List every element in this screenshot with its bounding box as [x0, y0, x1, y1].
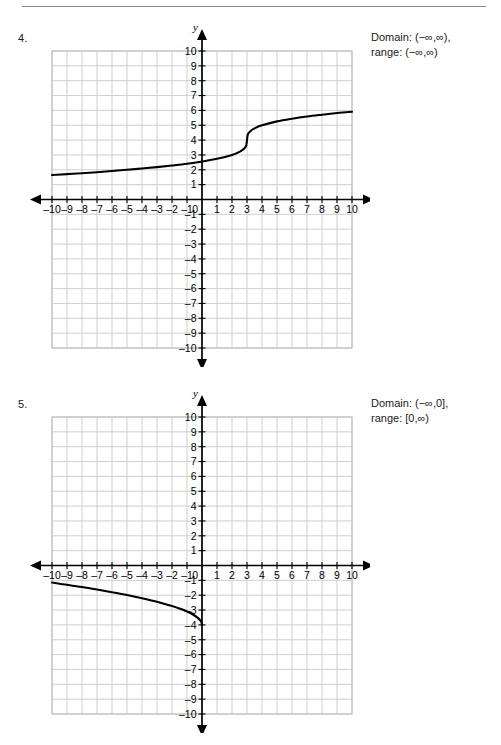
- x-axis-tick-label: –3: [151, 203, 163, 215]
- y-axis-tick-label: –7: [185, 297, 197, 309]
- x-axis-tick-label: 5: [274, 203, 280, 215]
- x-axis-tick-label: 2: [229, 569, 235, 581]
- y-axis-tick-label: 4: [191, 134, 197, 146]
- problem-4-answer-line-2: range: (−∞,∞): [371, 45, 438, 60]
- problem-5-answer-line-1: Domain: (−∞,0],: [371, 396, 448, 411]
- y-axis-tick-label: 5: [191, 485, 197, 497]
- x-axis-tick-label: –6: [106, 569, 118, 581]
- y-axis-tick-label: –3: [185, 238, 197, 250]
- y-axis-tick-label: –7: [185, 663, 197, 675]
- y-axis-tick-label: –6: [185, 648, 197, 660]
- x-axis-tick-label: –9: [61, 569, 73, 581]
- y-axis-tick-label: 6: [191, 470, 197, 482]
- problem-4: 4. Domain: (−∞,∞), range: (−∞,∞) –10–9–8…: [0, 0, 501, 370]
- problem-5: 5. Domain: (−∞,0], range: [0,∞) –10–9–8–…: [0, 370, 501, 745]
- x-axis-arrow-left: [30, 561, 41, 571]
- x-axis-tick-label: 1: [214, 569, 220, 581]
- y-axis-tick-label: 1: [191, 544, 197, 556]
- y-axis-tick-label: –5: [185, 634, 197, 646]
- axes: [30, 29, 370, 367]
- x-axis-tick-label: 4: [259, 203, 265, 215]
- x-axis-tick-label: –4: [136, 569, 148, 581]
- coordinate-plane-4: –10–9–8–7–6–5–4–3–2–112345678910–10–9–8–…: [20, 22, 370, 367]
- x-axis-tick-label: –3: [151, 569, 163, 581]
- worksheet-page: 4. Domain: (−∞,∞), range: (−∞,∞) –10–9–8…: [0, 0, 501, 745]
- y-axis-tick-label: –8: [185, 678, 197, 690]
- x-axis-tick-label: 8: [319, 569, 325, 581]
- problem-5-answer-line-2: range: [0,∞): [371, 411, 429, 426]
- y-axis-tick-label: 2: [191, 530, 197, 542]
- y-axis-tick-label: 10: [185, 411, 197, 423]
- problem-5-graph: –10–9–8–7–6–5–4–3–2–112345678910–10–9–8–…: [20, 388, 370, 733]
- x-axis-tick-label: 1: [214, 203, 220, 215]
- x-axis-tick-label: –2: [166, 569, 178, 581]
- y-axis-tick-label: –8: [185, 312, 197, 324]
- y-axis-label: y: [192, 388, 198, 399]
- y-axis-tick-label: 2: [191, 164, 197, 176]
- y-axis-tick-label: 7: [191, 89, 197, 101]
- y-axis-arrow-down: [197, 359, 207, 367]
- x-axis-tick-label: 3: [244, 569, 250, 581]
- coordinate-plane-5: –10–9–8–7–6–5–4–3–2–112345678910–10–9–8–…: [20, 388, 370, 733]
- x-axis-tick-label: 7: [304, 203, 310, 215]
- x-axis-tick-label: 10: [346, 569, 358, 581]
- y-axis-tick-label: 7: [191, 455, 197, 467]
- y-axis-tick-label: 9: [191, 426, 197, 438]
- y-axis-tick-label: –2: [185, 223, 197, 235]
- x-axis-tick-label: –7: [91, 203, 103, 215]
- y-axis-tick-label: 8: [191, 75, 197, 87]
- y-axis-tick-label: 1: [191, 178, 197, 190]
- x-axis-tick-label: 6: [289, 569, 295, 581]
- x-axis-tick-label: 2: [229, 203, 235, 215]
- y-axis-arrow-down: [197, 725, 207, 733]
- y-axis-tick-label: –4: [185, 619, 197, 631]
- x-axis-tick-label: –7: [91, 569, 103, 581]
- problem-4-answer-line-1: Domain: (−∞,∞),: [371, 30, 451, 45]
- y-axis-tick-label: 4: [191, 500, 197, 512]
- y-axis-tick-label: 10: [185, 45, 197, 57]
- y-axis-tick-label: –6: [185, 282, 197, 294]
- y-axis-tick-label: –2: [185, 589, 197, 601]
- x-axis-tick-label: 3: [244, 203, 250, 215]
- x-axis-tick-label: –10: [43, 203, 61, 215]
- x-axis-tick-label: –5: [121, 569, 133, 581]
- x-axis-tick-label: –9: [61, 203, 73, 215]
- x-axis-tick-label: 9: [334, 203, 340, 215]
- x-axis-tick-label: –6: [106, 203, 118, 215]
- x-axis-tick-label: –8: [76, 203, 88, 215]
- y-axis-tick-label: –9: [185, 693, 197, 705]
- x-axis-tick-label: 5: [274, 569, 280, 581]
- x-axis-tick-label: –5: [121, 203, 133, 215]
- problem-4-graph: –10–9–8–7–6–5–4–3–2–112345678910–10–9–8–…: [20, 22, 370, 367]
- x-axis-arrow-right: [363, 561, 370, 571]
- x-axis-arrow-right: [363, 195, 370, 205]
- x-axis-tick-label: 9: [334, 569, 340, 581]
- y-axis-arrow-up: [197, 29, 207, 40]
- y-axis-tick-label: 8: [191, 441, 197, 453]
- x-axis-tick-label: 4: [259, 569, 265, 581]
- y-axis-tick-label: 5: [191, 119, 197, 131]
- y-axis-tick-label: –10: [179, 708, 197, 720]
- y-axis-tick-label: –4: [185, 253, 197, 265]
- y-axis-tick-label: 6: [191, 104, 197, 116]
- y-axis-tick-label: –9: [185, 327, 197, 339]
- y-axis-label: y: [192, 22, 198, 33]
- x-axis-arrow-left: [30, 195, 41, 205]
- y-axis-tick-label: 3: [191, 149, 197, 161]
- origin-label: 0: [192, 203, 198, 215]
- x-axis-tick-label: –8: [76, 569, 88, 581]
- y-axis-tick-label: 3: [191, 515, 197, 527]
- x-axis-tick-label: –4: [136, 203, 148, 215]
- y-axis-tick-label: –10: [179, 342, 197, 354]
- axes: [30, 395, 370, 733]
- x-axis-tick-label: 10: [346, 203, 358, 215]
- x-axis-tick-label: 7: [304, 569, 310, 581]
- y-axis-tick-label: –5: [185, 268, 197, 280]
- y-axis-arrow-up: [197, 395, 207, 406]
- x-axis-tick-label: –10: [43, 569, 61, 581]
- y-axis-tick-label: 9: [191, 60, 197, 72]
- origin-label: 0: [192, 569, 198, 581]
- x-axis-tick-label: 6: [289, 203, 295, 215]
- x-axis-tick-label: –2: [166, 203, 178, 215]
- x-axis-tick-label: 8: [319, 203, 325, 215]
